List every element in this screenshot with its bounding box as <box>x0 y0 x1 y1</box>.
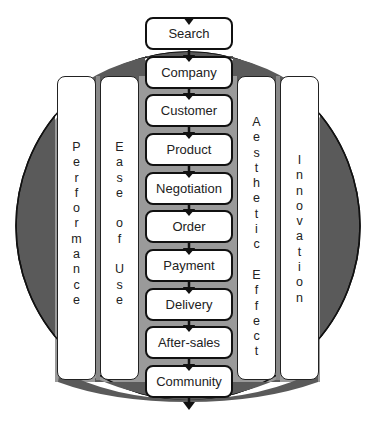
step-payment: Payment <box>145 249 233 282</box>
step-customer: Customer <box>145 94 233 127</box>
step-negotiation: Negotiation <box>145 172 233 205</box>
pillar-label: Aesthetic Effect <box>238 115 275 360</box>
pillar-ease-of-use: Ease of Use <box>100 76 139 380</box>
pillar-label: Innovation <box>281 153 318 306</box>
pillar-innovation: Innovation <box>280 76 319 380</box>
arrow-down-icon <box>183 402 195 410</box>
step-delivery: Delivery <box>145 288 233 321</box>
pillar-label: Ease of Use <box>101 140 138 308</box>
pillar-aesthetic-effect: Aesthetic Effect <box>237 76 276 380</box>
step-company: Company <box>145 56 233 89</box>
pillar-performance: Performance <box>57 76 96 380</box>
step-search: Search <box>145 17 233 50</box>
step-order: Order <box>145 210 233 243</box>
step-after-sales: After-sales <box>145 326 233 359</box>
step-product: Product <box>145 133 233 166</box>
step-community: Community <box>145 365 233 398</box>
process-diagram: Performance Ease of Use Aesthetic Effect… <box>0 0 377 424</box>
pillar-label: Performance <box>58 140 95 308</box>
